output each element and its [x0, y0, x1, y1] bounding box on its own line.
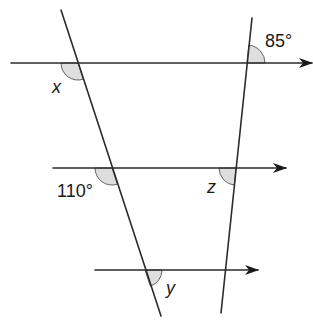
angle-label-85: 85° — [265, 31, 292, 51]
angle-label-x: x — [51, 77, 62, 97]
parallel-lines-diagram: x 85° 110° z y — [0, 0, 313, 325]
angle-arc-85 — [247, 45, 265, 63]
angle-label-110: 110° — [57, 181, 93, 201]
angle-label-y: y — [164, 278, 176, 298]
angle-arc-z — [219, 168, 236, 185]
angle-label-z: z — [206, 177, 216, 197]
